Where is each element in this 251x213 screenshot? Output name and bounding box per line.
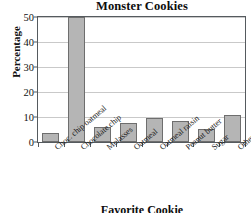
x-axis-tick-labels: Choc. chip oatmealChocolate chipMolasses…: [37, 145, 246, 205]
x-axis-title: Favorite Cookie: [36, 203, 248, 213]
y-tick-label: 50: [24, 12, 35, 23]
y-tick-label: 40: [24, 37, 35, 48]
bar-slot: [142, 17, 168, 142]
y-tick-label: 20: [24, 87, 35, 98]
bar-chart: Monster Cookies Percentage 01020304050 C…: [0, 0, 251, 213]
y-tick-label: 30: [24, 62, 35, 73]
y-axis-title: Percentage: [10, 7, 22, 97]
y-tick-label: 0: [29, 137, 34, 148]
chart-title: Monster Cookies: [36, 0, 248, 14]
y-tick-label: 10: [24, 112, 35, 123]
bar-slot: [38, 17, 64, 142]
bar-slot: [116, 17, 142, 142]
